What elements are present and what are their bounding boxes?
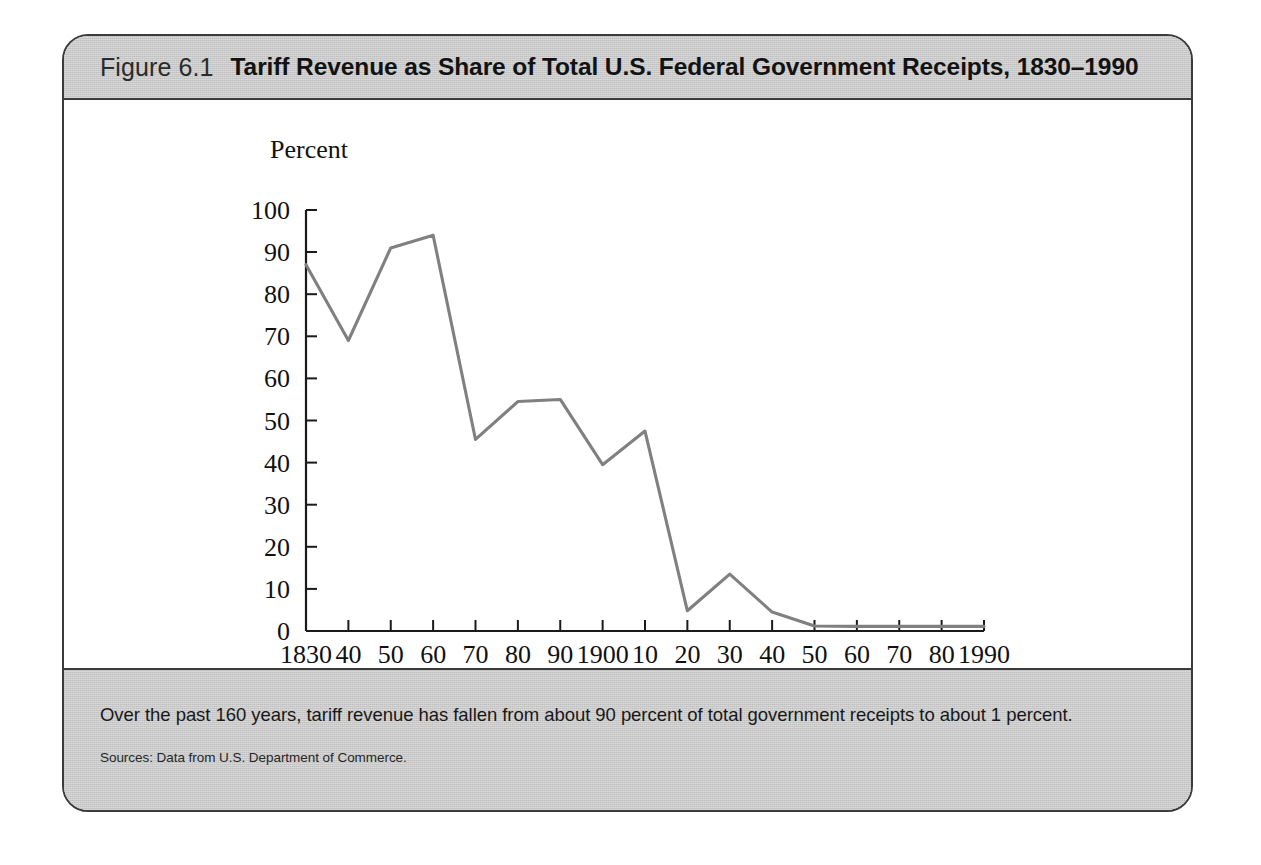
data-series-line (306, 235, 984, 626)
x-tick-label: 60 (420, 640, 446, 668)
y-tick-label: 50 (264, 407, 290, 436)
y-axis-tick-labels: 0102030405060708090100 (251, 196, 290, 646)
x-tick-label: 70 (463, 640, 489, 668)
y-tick-label: 100 (251, 196, 290, 225)
x-tick-label: 40 (759, 640, 785, 668)
y-tick-label: 80 (264, 280, 290, 309)
y-tick-label: 40 (264, 449, 290, 478)
figure-number: Figure 6.1 (100, 53, 214, 82)
x-tick-label: 50 (378, 640, 404, 668)
x-tick-label: 80 (929, 640, 955, 668)
figure-footer: Over the past 160 years, tariff revenue … (64, 668, 1191, 810)
x-tick-label: 80 (505, 640, 531, 668)
y-tick-label: 60 (264, 364, 290, 393)
x-tick-label: 1900 (577, 640, 629, 668)
x-tick-label: 60 (844, 640, 870, 668)
x-tick-label: 90 (547, 640, 573, 668)
figure-source: Sources: Data from U.S. Department of Co… (100, 750, 1149, 765)
x-tick-label: 30 (717, 640, 743, 668)
x-tick-label: 50 (802, 640, 828, 668)
y-tick-label: 30 (264, 491, 290, 520)
x-tick-label: 20 (674, 640, 700, 668)
line-chart: Percent Year 0102030405060708090100 1830… (64, 100, 1191, 668)
figure-title: Tariff Revenue as Share of Total U.S. Fe… (231, 53, 1139, 81)
y-axis-label: Percent (270, 135, 349, 164)
chart-plot-region: Percent Year 0102030405060708090100 1830… (64, 100, 1191, 668)
x-tick-label: 1830 (280, 640, 332, 668)
figure-container: Figure 6.1 Tariff Revenue as Share of To… (62, 34, 1193, 812)
y-tick-label: 20 (264, 533, 290, 562)
x-tick-label: 40 (335, 640, 361, 668)
figure-caption: Over the past 160 years, tariff revenue … (100, 704, 1149, 726)
x-tick-label: 1990 (958, 640, 1010, 668)
x-tick-label: 10 (632, 640, 658, 668)
y-tick-label: 10 (264, 575, 290, 604)
x-tick-label: 70 (886, 640, 912, 668)
y-tick-label: 90 (264, 238, 290, 267)
x-axis-tick-labels: 1830405060708090190010203040506070801990 (280, 640, 1010, 668)
y-tick-label: 70 (264, 322, 290, 351)
figure-header: Figure 6.1 Tariff Revenue as Share of To… (64, 36, 1191, 100)
